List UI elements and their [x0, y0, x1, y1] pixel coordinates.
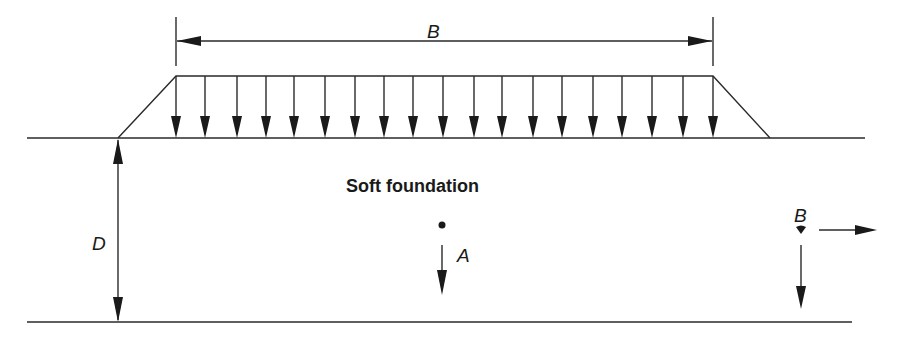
load-arrow-icon: [708, 116, 718, 138]
width-label: B: [427, 21, 440, 42]
load-arrow-icon: [379, 116, 389, 138]
load-arrow-icon: [408, 116, 418, 138]
point-a-marker: [439, 222, 446, 229]
diagram-canvas: B D Soft foundation A B: [0, 0, 899, 342]
load-arrow-icon: [678, 116, 688, 138]
load-arrows: [171, 76, 718, 138]
point-b-marker: [796, 226, 806, 235]
arrowhead-down-icon: [113, 297, 123, 322]
arrow-down-icon: [437, 270, 447, 295]
load-arrow-icon: [647, 116, 657, 138]
load-arrow-icon: [261, 116, 271, 138]
load-arrow-icon: [617, 116, 627, 138]
load-arrow-icon: [200, 116, 210, 138]
point-b-label: B: [794, 205, 807, 226]
arrowhead-left-icon: [177, 36, 201, 46]
arrow-right-icon: [855, 225, 877, 235]
load-arrow-icon: [438, 116, 448, 138]
load-arrow-icon: [289, 116, 299, 138]
load-arrow-icon: [557, 116, 567, 138]
arrow-down-icon: [796, 286, 806, 309]
foundation-label: Soft foundation: [346, 176, 479, 196]
point-a: A: [437, 222, 470, 296]
load-arrow-icon: [497, 116, 507, 138]
depth-dimension: D: [92, 139, 123, 322]
load-arrow-icon: [350, 116, 360, 138]
load-arrow-icon: [469, 116, 479, 138]
load-arrow-icon: [232, 116, 242, 138]
arrowhead-up-icon: [113, 139, 123, 164]
point-a-label: A: [456, 245, 470, 266]
load-arrow-icon: [588, 116, 598, 138]
depth-label: D: [92, 233, 106, 254]
point-b: B: [794, 205, 877, 309]
width-dimension: B: [176, 17, 713, 66]
load-arrow-icon: [320, 116, 330, 138]
arrowhead-right-icon: [688, 36, 712, 46]
load-arrow-icon: [528, 116, 538, 138]
load-arrow-icon: [171, 116, 181, 138]
